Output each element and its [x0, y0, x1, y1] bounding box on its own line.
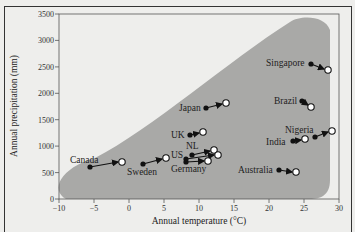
label-singapore: Singapore	[266, 58, 305, 68]
label-germany: Germany	[171, 164, 207, 174]
y-tick-label: 1500	[38, 116, 54, 125]
x-tick-label: 25	[300, 204, 308, 213]
label-nigeria: Nigeria	[285, 125, 314, 135]
x-tick-label: 0	[127, 204, 131, 213]
x-tick-label: 10	[195, 204, 203, 213]
x-axis	[59, 199, 339, 203]
label-india: India	[266, 137, 286, 147]
y-tick-label: 2000	[38, 89, 54, 98]
x-tick-label: −5	[90, 204, 99, 213]
x-tick-label: 5	[162, 204, 166, 213]
y-tick-label: 500	[42, 169, 54, 178]
label-uk: UK	[171, 130, 185, 140]
label-brazil: Brazil	[274, 96, 298, 106]
y-tick-label: 2500	[38, 63, 54, 72]
y-tick-label: 3500	[38, 10, 54, 19]
y-tick-label: 3000	[38, 36, 54, 45]
label-australia: Australia	[238, 165, 274, 175]
scatter-chart: 0 500 1000 1500 2000 2500 3000 3500 −10 …	[0, 0, 355, 232]
x-tick-label: 15	[230, 204, 238, 213]
x-tick-label: −10	[53, 204, 66, 213]
y-axis	[55, 14, 59, 199]
label-nl: NL	[186, 141, 199, 151]
label-canada: Canada	[70, 155, 99, 165]
y-tick-label: 1000	[38, 142, 54, 151]
label-sweden: Sweden	[127, 167, 157, 177]
y-axis-title: Annual precipitation (mm)	[9, 55, 20, 157]
label-us: US	[171, 150, 183, 160]
label-japan: Japan	[179, 103, 201, 113]
x-axis-title: Annual temperature (°C)	[152, 216, 247, 227]
x-tick-label: 30	[335, 204, 343, 213]
y-tick-label: 0	[50, 195, 54, 204]
x-tick-label: 20	[265, 204, 273, 213]
